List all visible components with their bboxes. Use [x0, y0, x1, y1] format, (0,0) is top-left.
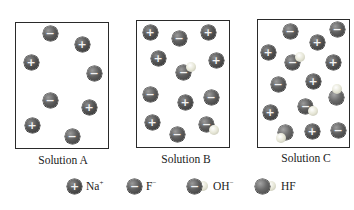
na-ion: + [209, 53, 224, 68]
f-ion: − [43, 26, 58, 41]
f-ion: − [330, 22, 345, 37]
legend-na-label: Na+ [86, 180, 103, 192]
oh-ion-icon: − [187, 179, 209, 194]
na-ion: + [25, 118, 40, 133]
na-ion: + [306, 74, 321, 89]
f-ion-icon: − [127, 179, 142, 194]
na-ion-icon: + [67, 179, 82, 194]
legend-oh-label: OH− [213, 180, 234, 192]
legend-hf: HF [255, 178, 296, 194]
solution-a-label: Solution A [38, 154, 88, 166]
f-ion: − [271, 77, 286, 92]
f-ion: − [172, 31, 187, 46]
na-ion: + [75, 37, 90, 52]
na-ion: + [24, 55, 39, 70]
na-ion: + [143, 25, 158, 40]
solution-b-label: Solution B [161, 153, 211, 165]
na-ion: + [305, 124, 320, 139]
f-ion: − [170, 127, 185, 142]
na-ion: + [145, 115, 160, 130]
f-ion: − [204, 90, 219, 105]
f-ion: − [331, 123, 346, 138]
f-ion: − [65, 129, 80, 144]
legend-f: − F− [127, 178, 156, 194]
legend-hf-label: HF [281, 180, 296, 192]
na-ion: + [178, 95, 193, 110]
f-ion: − [283, 24, 298, 39]
na-ion: + [261, 45, 276, 60]
hf-molecule-icon [255, 179, 277, 194]
legend-f-label: F− [146, 180, 156, 192]
na-ion: + [201, 25, 216, 40]
solution-c-label: Solution C [281, 152, 331, 164]
legend-oh: − OH− [187, 178, 234, 194]
na-ion: + [326, 55, 341, 70]
f-ion: − [87, 66, 102, 81]
f-ion: − [43, 93, 58, 108]
legend-na: + Na+ [67, 178, 103, 194]
na-ion: + [82, 100, 97, 115]
f-ion: − [143, 87, 158, 102]
na-ion: + [151, 51, 166, 66]
na-ion: + [263, 105, 278, 120]
na-ion: + [310, 35, 325, 50]
